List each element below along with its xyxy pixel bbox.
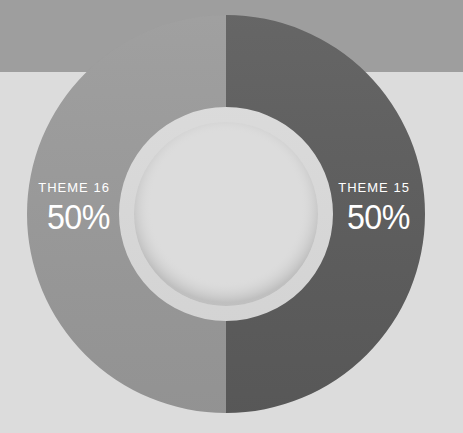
slice-label-theme-15: THEME 15 50% xyxy=(318,181,410,234)
slice-label-theme-16-value: 50% xyxy=(25,199,110,234)
slice-label-theme-15-value: 50% xyxy=(325,199,410,234)
slice-label-theme-15-name: THEME 15 xyxy=(322,181,410,195)
donut-chart-figure: THEME 16 50% THEME 15 50% xyxy=(0,0,463,433)
donut-center-hole-shadow xyxy=(134,122,318,306)
slice-label-theme-16: THEME 16 50% xyxy=(18,181,110,234)
slice-label-theme-16-name: THEME 16 xyxy=(22,181,110,195)
